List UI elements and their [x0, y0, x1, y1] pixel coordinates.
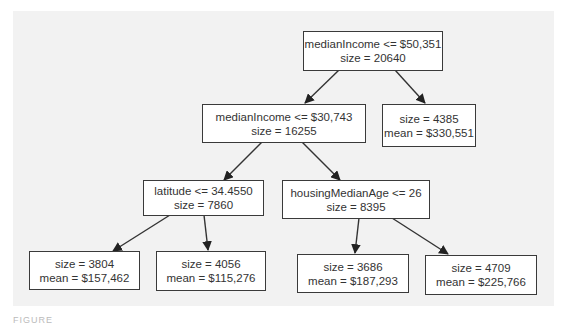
- leaf-2-size: size = 4056: [181, 257, 240, 271]
- node-left: medianIncome <= $30,743 size = 16255: [202, 104, 366, 143]
- leaf-3-mean: mean = $187,293: [308, 274, 398, 288]
- node-left-condition: medianIncome <= $30,743: [216, 110, 353, 124]
- leaf-3-size: size = 3686: [323, 260, 382, 274]
- node-left-right: housingMedianAge <= 26 size = 8395: [282, 180, 430, 219]
- edge-ll-leaf2: [204, 215, 208, 250]
- edge-lr-leaf3: [355, 218, 359, 253]
- leaf-3: size = 3686 mean = $187,293: [297, 254, 409, 293]
- leaf-4-size: size = 4709: [451, 261, 510, 275]
- leaf-4: size = 4709 mean = $225,766: [425, 255, 537, 295]
- edge-left-leftright: [302, 142, 340, 180]
- node-left-size: size = 16255: [251, 124, 317, 138]
- edge-left-leftleft: [224, 142, 262, 180]
- leaf-2-mean: mean = $115,276: [167, 271, 256, 285]
- node-right-leaf-size: size = 4385: [399, 112, 458, 126]
- node-right-leaf-mean: mean = $330,551: [384, 126, 474, 140]
- node-left-right-size: size = 8395: [326, 200, 385, 214]
- node-left-left: latitude <= 34.4550 size = 7860: [143, 180, 264, 216]
- figure-caption: FIGURE: [13, 315, 53, 325]
- leaf-4-mean: mean = $225,766: [436, 275, 526, 289]
- node-root-condition: medianIncome <= $50,351: [305, 37, 442, 51]
- edge-root-left: [305, 70, 339, 103]
- node-left-right-condition: housingMedianAge <= 26: [290, 186, 421, 200]
- leaf-1-size: size = 3804: [55, 257, 114, 271]
- node-root: medianIncome <= $50,351 size = 20640: [303, 31, 443, 71]
- node-left-left-condition: latitude <= 34.4550: [154, 184, 252, 198]
- node-root-size: size = 20640: [340, 51, 406, 65]
- node-left-left-size: size = 7860: [174, 198, 233, 212]
- node-right-leaf: size = 4385 mean = $330,551: [382, 104, 476, 147]
- edge-root-right: [395, 70, 425, 103]
- leaf-2: size = 4056 mean = $115,276: [156, 251, 266, 291]
- edge-lr-leaf4: [392, 218, 448, 254]
- leaf-1-mean: mean = $157,462: [40, 271, 130, 285]
- edge-ll-leaf1: [113, 215, 170, 251]
- leaf-1: size = 3804 mean = $157,462: [29, 251, 140, 290]
